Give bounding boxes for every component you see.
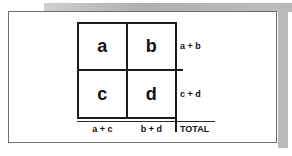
table-cell-b: b [128,24,175,69]
column-total-right: b + d [128,124,175,134]
column-total-baseline [77,121,215,122]
table-cell-c: c [79,71,126,117]
page-shadow-right [278,3,288,148]
scanned-figure: a b c d a + b c + d a + c b + d TOTAL [0,0,292,156]
total-column-rule [175,113,177,132]
column-total-left: a + c [79,124,126,134]
grand-total-label: TOTAL [180,124,209,134]
row-total-bottom: c + d [180,89,201,99]
table-cell-a: a [79,24,126,69]
row-total-tick [177,69,183,71]
row-total-top: a + b [180,41,201,51]
table-cell-d: d [128,71,175,117]
